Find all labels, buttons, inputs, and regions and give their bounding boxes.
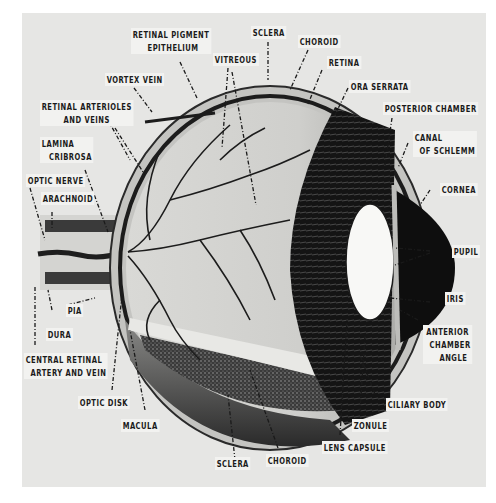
label-line: CANAL	[415, 131, 476, 144]
label-optic-disk: OPTIC DISK	[78, 396, 130, 409]
label-pia: PIA	[66, 304, 83, 317]
label-lamina-cribrosa: LAMINA CRIBROSA	[40, 137, 94, 163]
label-vortex-vein: VORTEX VEIN	[105, 73, 164, 86]
label-vitreous: VITREOUS	[213, 53, 259, 66]
label-optic-nerve: OPTIC NERVE	[26, 174, 85, 187]
label-line: CRIBROSA	[42, 150, 92, 163]
label-sclera-bottom: SCLERA	[215, 457, 251, 470]
label-ciliary-body: CILIARY BODY	[386, 398, 448, 411]
label-canal-of-schlemm: CANAL OF SCHLEMM	[413, 131, 477, 157]
label-line: ARTERY AND VEIN	[26, 366, 107, 379]
label-arachnoid: ARACHNOID	[41, 192, 95, 205]
label-pupil: PUPIL	[452, 245, 480, 258]
label-line: OF SCHLEMM	[415, 144, 476, 157]
eye-illustration	[0, 0, 496, 503]
label-line: AND VEINS	[42, 113, 132, 126]
label-line: CHAMBER	[425, 338, 471, 351]
label-line: EPITHELIUM	[133, 41, 210, 54]
label-choroid-top: CHOROID	[298, 35, 340, 48]
label-central-retinal-artery-vein: CENTRAL RETINAL ARTERY AND VEIN	[24, 353, 108, 379]
label-lens-capsule: LENS CAPSULE	[322, 441, 388, 454]
label-iris: IRIS	[445, 292, 465, 305]
label-macula: MACULA	[121, 419, 159, 432]
label-line: CENTRAL RETINAL	[26, 353, 107, 366]
label-dura: DURA	[46, 328, 73, 341]
label-sclera-top: SCLERA	[251, 26, 287, 39]
label-ora-serrata: ORA SERRATA	[349, 80, 410, 93]
label-zonule: ZONULE	[352, 419, 389, 432]
label-line: ANGLE	[425, 351, 471, 364]
label-cornea: CORNEA	[440, 183, 478, 196]
label-retinal-pigment-epithelium: RETINAL PIGMENT EPITHELIUM	[131, 28, 211, 54]
label-posterior-chamber: POSTERIOR CHAMBER	[383, 102, 478, 115]
label-line: ANTERIOR	[425, 325, 471, 338]
label-line: RETINAL ARTERIOLES	[42, 100, 132, 113]
label-choroid-bottom: CHOROID	[266, 454, 308, 467]
label-line: RETINAL PIGMENT	[133, 28, 210, 41]
label-retina: RETINA	[327, 56, 361, 69]
label-retinal-arterioles-veins: RETINAL ARTERIOLES AND VEINS	[40, 100, 133, 126]
label-anterior-chamber-angle: ANTERIOR CHAMBER ANGLE	[423, 325, 472, 364]
label-line: LAMINA	[42, 137, 92, 150]
